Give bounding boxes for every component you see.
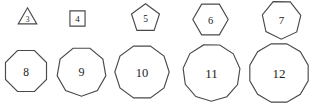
polygon-octagon: 8 — [3, 48, 49, 94]
polygon-side-count-label: 8 — [23, 66, 29, 78]
polygon-decagon: 10 — [114, 44, 170, 100]
polygon-triangle: 3 — [16, 7, 39, 30]
polygon-dodecagon: 12 — [248, 42, 310, 104]
polygon-hexagon: 6 — [192, 1, 229, 38]
polygon-side-count-label: 5 — [143, 14, 148, 24]
polygon-side-count-label: 6 — [208, 15, 213, 26]
polygon-side-count-label: 4 — [75, 14, 80, 24]
polygon-heptagon: 7 — [261, 0, 302, 40]
polygon-side-count-label: 10 — [136, 66, 149, 80]
polygon-side-count-label: 12 — [273, 66, 286, 81]
polygon-figure: 3456789101112 — [0, 0, 315, 107]
polygon-nonagon: 9 — [56, 46, 107, 97]
polygon-side-count-label: 9 — [79, 65, 85, 79]
polygon-square: 4 — [66, 7, 89, 30]
polygon-hendecagon: 11 — [182, 43, 241, 102]
polygon-side-count-label: 3 — [26, 15, 30, 24]
polygon-pentagon: 5 — [130, 3, 161, 34]
polygon-side-count-label: 7 — [279, 14, 285, 26]
polygon-side-count-label: 11 — [205, 66, 218, 81]
